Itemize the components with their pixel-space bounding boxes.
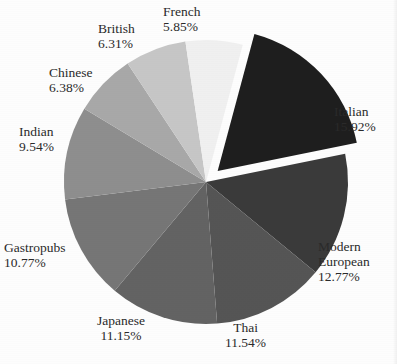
pie-label-modern-european-name2: European (318, 254, 370, 269)
pie-label-chinese-value: 6.38% (49, 80, 93, 95)
pie-label-chinese: Chinese 6.38% (49, 65, 93, 95)
pie-label-indian-name: Indian (19, 124, 54, 139)
pie-label-british: British 6.31% (98, 21, 135, 51)
pie-label-french-value: 5.85% (163, 19, 201, 34)
pie-label-thai: Thai 11.54% (225, 320, 266, 350)
pie-label-indian: Indian 9.54% (19, 124, 54, 154)
pie-label-british-value: 6.31% (98, 36, 135, 51)
pie-label-gastropubs-value: 10.77% (4, 255, 66, 270)
pie-label-british-name: British (98, 21, 135, 36)
pie-label-gastropubs-name: Gastropubs (4, 240, 66, 255)
pie-label-japanese-name: Japanese (97, 313, 145, 328)
pie-label-indian-value: 9.54% (19, 139, 54, 154)
pie-label-modern-european: Modern European 12.77% (318, 239, 370, 284)
pie-label-italian: Italian 15.92% (334, 104, 376, 134)
pie-label-modern-european-name: Modern (318, 239, 370, 254)
pie-label-chinese-name: Chinese (49, 65, 93, 80)
pie-label-japanese-value: 11.15% (97, 328, 145, 343)
pie-label-french-name: French (163, 4, 201, 19)
pie-chart: Italian 15.92% Modern European 12.77% Th… (0, 0, 397, 364)
pie-label-french: French 5.85% (163, 4, 201, 34)
pie-label-japanese: Japanese 11.15% (97, 313, 145, 343)
pie-label-gastropubs: Gastropubs 10.77% (4, 240, 66, 270)
pie-label-thai-value: 11.54% (225, 335, 266, 350)
pie-chart-canvas (0, 0, 397, 364)
pie-label-modern-european-value: 12.77% (318, 269, 370, 284)
pie-label-italian-name: Italian (334, 104, 376, 119)
pie-label-thai-name: Thai (225, 320, 266, 335)
pie-label-italian-value: 15.92% (334, 119, 376, 134)
